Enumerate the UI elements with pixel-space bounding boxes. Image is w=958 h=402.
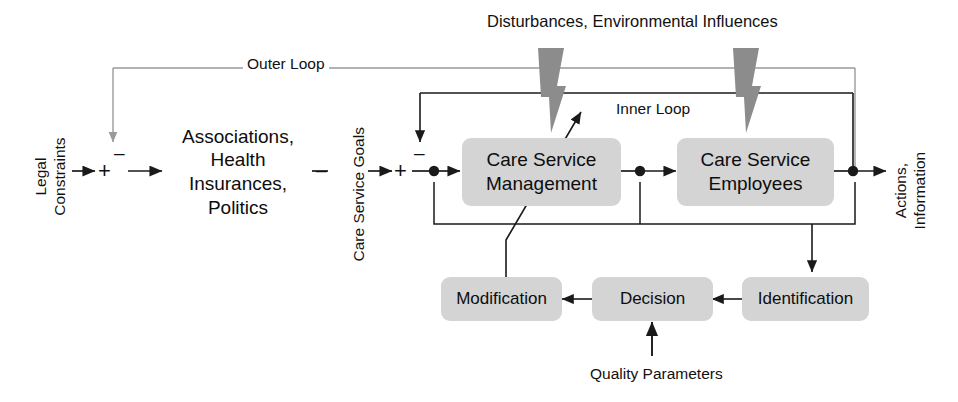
- outer-loop-label: Outer Loop: [243, 55, 329, 74]
- node-identification[interactable]: Identification: [742, 277, 869, 321]
- node-decision[interactable]: Decision: [592, 277, 713, 321]
- junction2-minus-sign: –: [414, 143, 425, 162]
- node-care-service-employees[interactable]: Care Service Employees: [677, 138, 834, 206]
- node-care-service-management-label: Care Service Management: [486, 148, 597, 196]
- node-care-service-management[interactable]: Care Service Management: [462, 138, 621, 206]
- node-care-service-employees-label: Care Service Employees: [701, 148, 811, 196]
- node-decision-label: Decision: [620, 288, 685, 309]
- node-associations[interactable]: Associations, Health Insurances, Politic…: [162, 146, 314, 198]
- disturbance-arrows: [538, 48, 761, 133]
- node-modification-label: Modification: [456, 288, 547, 309]
- inner-loop-label: Inner Loop: [616, 100, 690, 119]
- goal-minus-sign: –: [316, 160, 327, 179]
- junction1-plus-sign: +: [98, 160, 111, 182]
- node-associations-label: Associations, Health Insurances, Politic…: [162, 125, 314, 220]
- node-identification-label: Identification: [758, 288, 853, 309]
- diagram-canvas: Associations, Health Insurances, Politic…: [0, 0, 958, 402]
- legal-constraints-label: Legal Constraints: [32, 122, 69, 232]
- disturbances-label: Disturbances, Environmental Influences: [487, 12, 778, 32]
- junction2-plus-sign: +: [394, 160, 407, 182]
- node-modification[interactable]: Modification: [441, 277, 562, 321]
- junction1-minus-sign: –: [114, 143, 125, 162]
- disturbance-wedge-2: [733, 48, 761, 133]
- actions-information-label: Actions, Information: [892, 136, 929, 246]
- disturbance-wedge-1: [538, 48, 566, 133]
- care-service-goals-label: Care Service Goals: [350, 114, 369, 274]
- quality-parameters-label: Quality Parameters: [590, 365, 723, 384]
